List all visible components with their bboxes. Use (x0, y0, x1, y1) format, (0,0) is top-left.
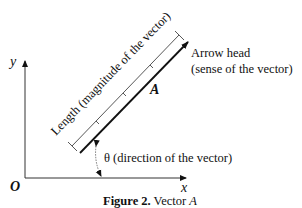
arrowhead-label-line2: (sense of the vector) (191, 62, 293, 76)
angle-label: θ (direction of the vector) (104, 151, 232, 165)
origin-label: O (10, 179, 20, 194)
y-axis-label: y (8, 54, 17, 69)
arrowhead-label-line1: Arrow head (191, 46, 251, 60)
angle-arc (96, 146, 101, 176)
caption-var: A (188, 194, 197, 208)
caption-bold: Figure 2. (103, 194, 151, 208)
vector-a-label: A (149, 82, 159, 97)
x-axis-label: x (180, 180, 188, 195)
figure-caption: Figure 2. Vector A (103, 194, 197, 208)
vector-diagram: y O x A Length (magnitude of the vector)… (0, 0, 302, 208)
caption-rest: Vector (151, 194, 190, 208)
length-label: Length (magnitude of the vector) (48, 9, 173, 138)
